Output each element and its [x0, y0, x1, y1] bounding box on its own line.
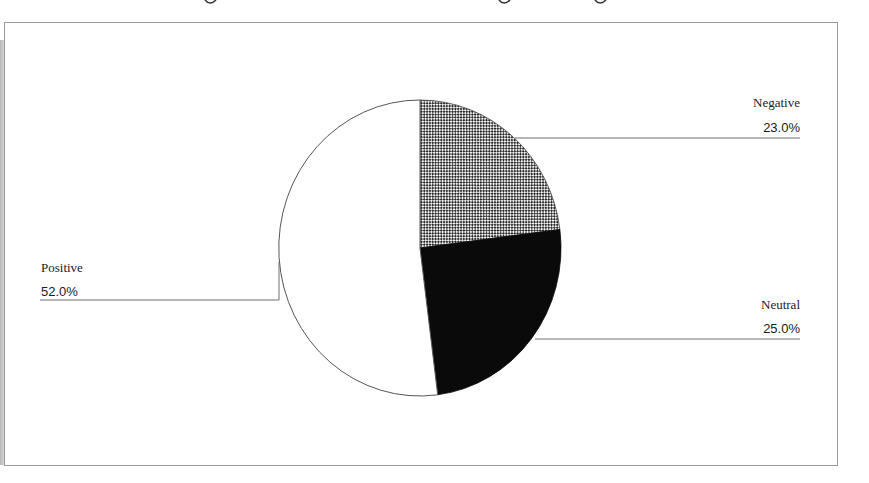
label-negative: Negative 23.0% [753, 95, 800, 135]
pie-slices [279, 100, 561, 396]
pie-chart: Negative 23.0% Neutral 25.0% Positive 52… [0, 0, 869, 483]
label-positive-value: 52.0% [41, 284, 78, 299]
slice-negative[interactable] [420, 100, 560, 248]
label-neutral-value: 25.0% [763, 321, 800, 336]
label-negative-value: 23.0% [763, 120, 800, 135]
label-negative-name: Negative [753, 95, 800, 110]
slice-positive[interactable] [279, 100, 438, 396]
label-positive-name: Positive [41, 260, 83, 275]
label-neutral-name: Neutral [761, 297, 800, 312]
slice-neutral[interactable] [420, 230, 561, 395]
label-positive: Positive 52.0% [41, 260, 83, 299]
label-neutral: Neutral 25.0% [761, 297, 800, 336]
